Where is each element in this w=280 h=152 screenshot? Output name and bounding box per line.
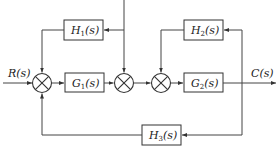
svg-text:H2(s): H2(s) <box>190 24 219 38</box>
block-g2: G2(s) <box>184 73 223 92</box>
input-label: R(s) <box>7 67 31 80</box>
output-signal: C(s) <box>223 67 276 83</box>
block-g1: G1(s) <box>65 73 104 92</box>
svg-text:C(s): C(s) <box>251 67 274 80</box>
block-diagram: R(s) G1(s) G2(s) C(s) <box>0 0 280 152</box>
output-label: C(s) <box>251 67 274 80</box>
svg-text:H1(s): H1(s) <box>70 24 99 38</box>
summing-junction-1 <box>33 74 52 93</box>
feedback-loop-h1: H1(s) <box>42 20 124 73</box>
svg-text:R(s): R(s) <box>7 67 31 80</box>
input-signal: R(s) <box>3 67 32 83</box>
svg-text:G1(s): G1(s) <box>72 77 100 91</box>
svg-text:H3(s): H3(s) <box>148 129 177 143</box>
svg-text:G2(s): G2(s) <box>191 77 219 91</box>
summing-junction-2 <box>115 74 134 93</box>
summing-junction-3 <box>152 74 171 93</box>
